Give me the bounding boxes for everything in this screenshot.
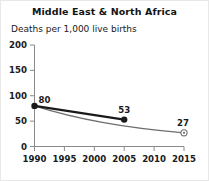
y-axis-tick-label: 100 — [9, 91, 27, 101]
y-axis-ticks — [30, 45, 35, 147]
x-axis-tick-label: 1995 — [52, 154, 76, 164]
y-axis-tick-label: 0 — [21, 142, 27, 152]
x-axis: 199019952000200520102015 — [23, 147, 196, 165]
data-point-value-label: 53 — [118, 105, 130, 115]
y-axis-tick-label: 50 — [15, 116, 27, 126]
y-axis-tick-label: 150 — [9, 65, 27, 75]
data-point-value-label: 27 — [177, 118, 189, 128]
data-point-labels: 805327 — [39, 95, 189, 128]
y-axis-tick-labels: 050100150200 — [9, 40, 27, 152]
x-axis-tick-label: 2005 — [112, 154, 136, 164]
x-axis-ticks — [35, 147, 185, 152]
chart-card: Middle East & North Africa Deaths per 1,… — [0, 0, 209, 181]
data-point-marker-target-dot — [183, 132, 185, 134]
x-axis-tick-labels: 199019952000200520102015 — [23, 154, 196, 164]
x-axis-tick-label: 2015 — [172, 154, 196, 164]
x-axis-tick-label: 2000 — [82, 154, 106, 164]
data-point-marker-filled — [31, 103, 37, 109]
data-point-marker-filled — [121, 116, 127, 122]
y-axis-tick-label: 200 — [9, 40, 27, 50]
x-axis-tick-label: 1990 — [23, 154, 47, 164]
data-point-value-label: 80 — [39, 95, 51, 105]
x-axis-tick-label: 2010 — [142, 154, 166, 164]
y-axis: 050100150200 — [9, 40, 34, 152]
line-chart-plot: 050100150200 199019952000200520102015 80… — [1, 1, 209, 181]
